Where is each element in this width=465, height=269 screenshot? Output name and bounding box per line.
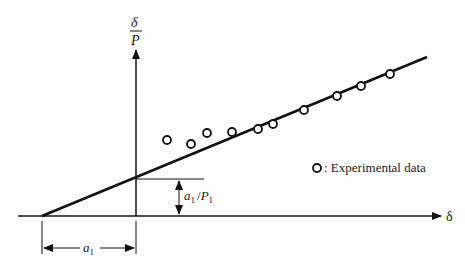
intercept-label: a1: [83, 240, 94, 257]
diagram-canvas: δ δ P a1/P1 a1 : Experimental data: [0, 0, 465, 269]
data-point: [254, 125, 262, 133]
legend-marker-icon: [313, 164, 321, 172]
svg-text:P: P: [130, 33, 140, 48]
legend-label: : Experimental data: [324, 160, 426, 175]
data-point: [333, 92, 341, 100]
data-point: [163, 136, 171, 144]
data-points: [163, 70, 394, 148]
fit-line: [42, 57, 427, 216]
svg-text:δ: δ: [131, 15, 138, 30]
svg-text:a1: a1: [83, 240, 94, 257]
data-point: [386, 70, 394, 78]
data-point: [203, 129, 211, 137]
data-point: [187, 140, 195, 148]
data-point: [357, 82, 365, 90]
legend: : Experimental data: [313, 160, 426, 175]
y-axis-label: δ P: [130, 15, 142, 48]
height-label: a1/P1: [184, 188, 213, 205]
svg-text:a1/P1: a1/P1: [184, 188, 213, 205]
data-point: [228, 128, 236, 136]
x-axis-label: δ: [446, 209, 453, 224]
data-point: [269, 120, 277, 128]
data-point: [300, 106, 308, 114]
